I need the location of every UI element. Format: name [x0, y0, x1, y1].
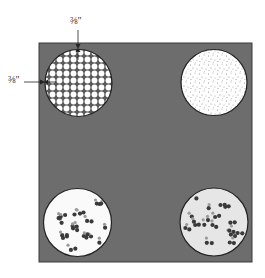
dimension-label-top: ⅜": [70, 16, 82, 26]
dimension-label-left: ⅜": [8, 75, 20, 85]
circle-bottom-left: [44, 189, 112, 257]
circle-top-left: [45, 50, 112, 117]
diagram-stage: ⅜" ⅜": [0, 0, 265, 278]
circle-top-right: [181, 50, 247, 116]
circle-bottom-right: [180, 188, 248, 256]
diagram-canvas: [0, 0, 265, 278]
